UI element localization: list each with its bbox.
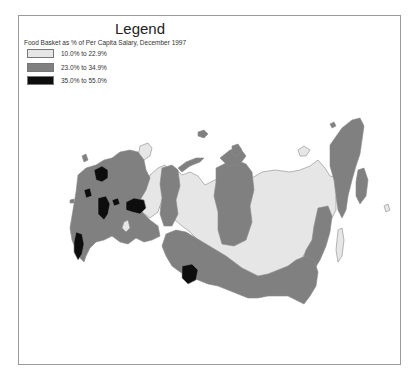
island-kurils [384,204,390,212]
island-franz-josef [198,130,208,138]
island-new-siberian [298,146,310,156]
region-light-sakhalin [336,228,344,262]
island-kola-small [82,154,88,162]
island-kaliningrad [70,199,74,203]
island-wrangel [330,122,336,128]
region-mid-krasnoyarsk [214,160,254,246]
region-mid-kamchatka [356,168,368,204]
russia-choropleth-map [0,0,418,384]
island-novaya-zemlya [178,158,204,172]
